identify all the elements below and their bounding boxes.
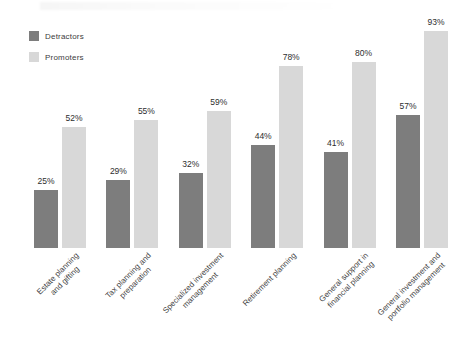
bar-value-label: 57%	[399, 101, 416, 111]
bar-detractors: 29%	[106, 180, 130, 248]
scanned-bar-chart-figure: DetractorsPromoters 25%52%Estate plannin…	[0, 0, 469, 339]
bar-group: 25%52%Estate planningand gifting	[34, 15, 86, 248]
bar-value-label: 25%	[37, 176, 54, 186]
bar-detractors: 44%	[251, 145, 275, 248]
bar-promoters: 78%	[279, 66, 303, 248]
bar-value-label: 41%	[327, 138, 344, 148]
x-axis-label-text: General support infinancial planning	[317, 251, 377, 311]
bar-detractors: 41%	[324, 152, 348, 248]
x-axis-label-text: Retirement planning	[241, 251, 298, 308]
bar-group: 32%59%Specialized investmentmanagement	[179, 15, 231, 248]
x-axis-label-text: General investment andportfolio manageme…	[376, 251, 449, 324]
bar-detractors: 32%	[179, 173, 203, 248]
bar-value-label: 59%	[210, 97, 227, 107]
bar-promoters: 55%	[134, 120, 158, 248]
bar-promoters: 80%	[352, 62, 376, 248]
bar-detractors: 57%	[396, 115, 420, 248]
scan-artifact	[40, 2, 340, 10]
bar-chart: 25%52%Estate planningand gifting29%55%Ta…	[34, 15, 448, 248]
bar-group: 29%55%Tax planning andpreparation	[106, 15, 158, 248]
bar-value-label: 78%	[283, 52, 300, 62]
x-axis-label-text: Specialized investmentmanagement	[161, 251, 232, 322]
bar-group: 57%93%General investment andportfolio ma…	[396, 15, 448, 248]
bar-group: 41%80%General support infinancial planni…	[324, 15, 376, 248]
x-axis-label-text: Tax planning andpreparation	[104, 251, 160, 307]
bar-value-label: 52%	[65, 113, 82, 123]
x-axis-label-text: Estate planningand gifting	[35, 251, 87, 303]
bar-detractors: 25%	[34, 190, 58, 248]
bar-value-label: 29%	[110, 166, 127, 176]
bar-value-label: 32%	[182, 159, 199, 169]
bar-group: 44%78%Retirement planning	[251, 15, 303, 248]
bar-value-label: 55%	[138, 106, 155, 116]
bar-promoters: 93%	[424, 31, 448, 248]
bar-promoters: 52%	[62, 127, 86, 248]
bar-promoters: 59%	[207, 111, 231, 248]
bar-value-label: 80%	[355, 48, 372, 58]
bar-value-label: 44%	[255, 131, 272, 141]
bar-value-label: 93%	[427, 17, 444, 27]
